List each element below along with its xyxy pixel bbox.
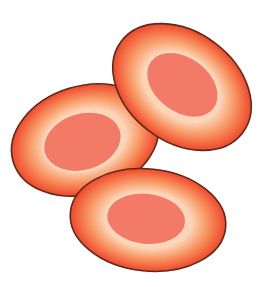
blood-cells-illustration — [0, 0, 278, 287]
illustration — [0, 0, 278, 287]
